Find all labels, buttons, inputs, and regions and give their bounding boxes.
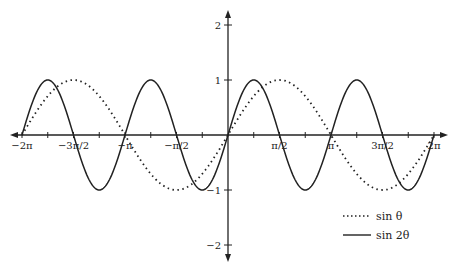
legend: sin θ sin 2θ: [343, 210, 410, 242]
x-tick-label: −3π/2: [58, 140, 89, 151]
x-tick-label: −2π: [11, 140, 33, 151]
x-tick-label: 3π/2: [371, 140, 394, 151]
y-tick-label: 1: [215, 75, 221, 86]
x-tick-label: −π: [118, 140, 133, 151]
x-tick-label: −π/2: [164, 140, 189, 151]
y-axis-down-arrow-icon: [225, 254, 231, 262]
y-tick-label: 2: [215, 20, 221, 31]
legend-label-sin-theta: sin θ: [376, 210, 403, 223]
x-tick-label: π/2: [271, 140, 287, 151]
x-axis-left-arrow-icon: [10, 132, 18, 138]
chart: −2π−3π/2−π−π/2π/2π3π/22π21−1−2 sin θ sin…: [0, 0, 453, 272]
legend-label-sin-2theta: sin 2θ: [376, 229, 410, 242]
y-axis-up-arrow-icon: [225, 10, 231, 18]
x-axis-right-arrow-icon: [440, 132, 448, 138]
y-tick-label: −2: [206, 240, 221, 251]
